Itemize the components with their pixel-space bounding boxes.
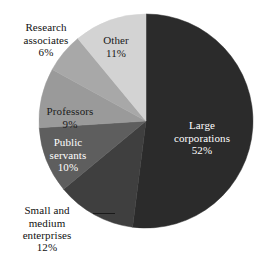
pie-chart: Large corporations 52% Other 11% Researc… xyxy=(0,0,259,261)
pie-slice-label-name-large-corporations: Large corporations xyxy=(174,119,230,143)
pie-slice-value-large-corporations: 52% xyxy=(160,144,244,156)
pie-slice-label-large-corporations: Large corporations 52% xyxy=(160,107,244,169)
pie-slice-label-name-professors: Professors xyxy=(47,105,94,117)
leader-line-small-and-medium-enterprises xyxy=(93,213,115,214)
pie-slice-value-public-servants: 10% xyxy=(37,161,99,173)
pie-slice-value-research-associates: 6% xyxy=(8,46,84,58)
pie-slice-value-small-and-medium-enterprises: 12% xyxy=(2,241,92,253)
pie-slice-label-research-associates: Research associates 6% xyxy=(8,9,84,71)
pie-slice-label-name-public-servants: Public servants xyxy=(50,136,87,160)
pie-slice-label-other: Other 11% xyxy=(92,22,140,71)
pie-slice-label-small-and-medium-enterprises: Small and medium enterprises 12% xyxy=(2,192,92,261)
pie-slice-label-public-servants: Public servants 10% xyxy=(37,124,99,186)
pie-slice-label-name-other: Other xyxy=(103,34,129,46)
pie-slice-value-other: 11% xyxy=(92,47,140,59)
pie-slice-label-name-research-associates: Research associates xyxy=(24,21,69,45)
pie-slice-label-name-small-and-medium-enterprises: Small and medium enterprises xyxy=(23,204,72,241)
